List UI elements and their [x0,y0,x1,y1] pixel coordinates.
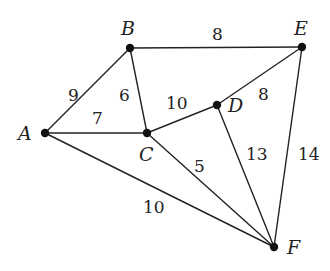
edge-A-B [45,48,130,133]
node-C [143,129,151,137]
edge-weight-E-F: 14 [298,144,320,164]
node-label-F: F [286,236,301,258]
node-label-B: B [120,17,135,39]
edge-weight-A-F: 10 [143,197,165,217]
node-label-A: A [16,122,32,144]
node-label-C: C [139,143,154,165]
node-E [298,43,306,51]
graph-svg: 97681085131410ABCDEF [0,0,330,271]
node-D [213,101,221,109]
edge-weight-C-D: 10 [166,93,188,113]
node-B [126,44,134,52]
edge-B-C [130,48,147,133]
node-F [270,243,278,251]
weighted-graph-diagram: 97681085131410ABCDEF [0,0,330,271]
node-A [41,129,49,137]
edge-weight-B-C: 6 [119,85,130,105]
node-label-E: E [293,17,308,39]
edge-B-E [130,47,302,48]
edge-A-F [45,133,274,247]
edge-D-F [217,105,274,247]
edge-weight-B-E: 8 [212,24,223,44]
edge-weight-E-D: 8 [258,84,269,104]
edge-weight-C-F: 5 [194,156,205,176]
edge-weight-A-B: 9 [68,85,79,105]
edge-weight-A-C: 7 [92,108,103,128]
node-label-D: D [227,94,243,116]
edge-weight-D-F: 13 [246,144,268,164]
